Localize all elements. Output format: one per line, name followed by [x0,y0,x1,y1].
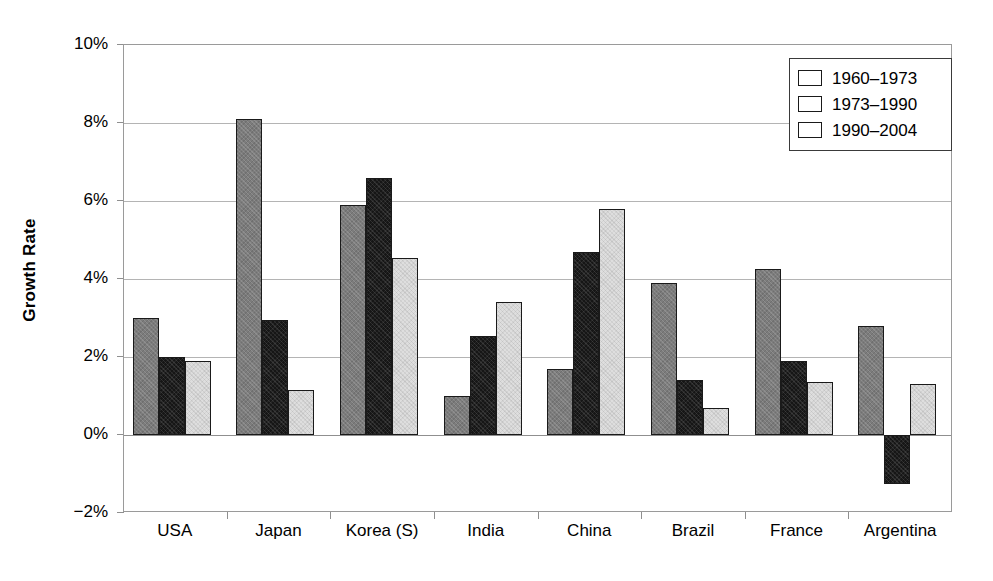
bar [910,384,936,435]
x-axis-category-label: Argentina [864,521,937,541]
bar [288,390,314,435]
legend-item: 1973–1990 [798,91,943,117]
bar [755,269,781,435]
bar [573,252,599,435]
y-axis-title: Growth Rate [10,190,50,350]
x-axis-tick-mark [641,512,642,519]
bar [444,396,470,435]
bar [236,119,262,435]
x-axis-tick-mark [538,512,539,519]
bar [133,318,159,435]
bar [703,408,729,435]
x-axis-category-label: Brazil [672,521,715,541]
legend-item: 1960–1973 [798,65,943,91]
bar [547,369,573,435]
series-2-swatch [798,96,822,112]
y-axis-tick-label: 4% [83,268,108,288]
x-axis-tick-mark [330,512,331,519]
bar [677,380,703,435]
y-axis-tick-label: 2% [83,346,108,366]
bar [185,361,211,435]
x-axis-category-labels: USAJapanKorea (S)IndiaChinaBrazilFranceA… [123,521,952,555]
bar [159,357,185,435]
bar [340,205,366,435]
series-3-swatch [798,122,822,138]
x-axis-tick-mark [434,512,435,519]
y-axis-tick-label: −2% [74,502,109,522]
bar [884,435,910,484]
y-axis-tick-label: 10% [74,34,108,54]
bar [651,283,677,435]
chart-legend: 1960–1973 1973–1990 1990–2004 [789,58,952,151]
x-axis-category-label: France [770,521,823,541]
x-axis-category-label: USA [157,521,192,541]
x-axis-tick-mark [848,512,849,519]
y-axis-tick-label: 6% [83,190,108,210]
bar [496,302,522,435]
x-axis-category-label: India [467,521,504,541]
bar [392,258,418,435]
legend-item: 1990–2004 [798,117,943,143]
y-axis-tick-label: 0% [83,424,108,444]
bar [807,382,833,435]
x-axis-tick-mark [745,512,746,519]
bar [470,336,496,435]
bar [858,326,884,435]
x-axis-tick-mark [227,512,228,519]
bar [262,320,288,435]
series-1-swatch [798,70,822,86]
y-axis-tick-label: 8% [83,112,108,132]
x-axis-category-label: Korea (S) [346,521,419,541]
x-axis-tick-marks [123,512,952,520]
x-axis-category-label: Japan [255,521,301,541]
bar-chart-figure: Growth Rate 10%8%6%4%2%0%−2% USAJapanKor… [0,0,993,581]
legend-item-label: 1973–1990 [832,96,917,113]
bar [599,209,625,435]
bar [366,178,392,435]
legend-item-label: 1990–2004 [832,122,917,139]
legend-item-label: 1960–1973 [832,70,917,87]
y-axis-title-label: Growth Rate [20,218,40,321]
x-axis-category-label: China [567,521,611,541]
y-axis-tick-labels: 10%8%6%4%2%0%−2% [48,44,116,512]
bar [781,361,807,435]
